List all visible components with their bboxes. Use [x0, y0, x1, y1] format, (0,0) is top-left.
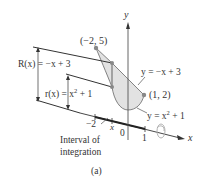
- washer-method-diagram: y x (−2, 5) (1, 2) y = −x + 3 y = x2 + 1…: [0, 0, 204, 187]
- x-axis-label: x: [187, 132, 193, 143]
- inner-radius-line: [66, 74, 112, 87]
- point-label-neg2-5: (−2, 5): [80, 35, 107, 47]
- parabola-label-leader: [137, 108, 147, 113]
- y-axis-arrow-icon: [126, 22, 130, 29]
- parabola-equation-label: y = x2 + 1: [147, 109, 185, 121]
- line-equation-label: y = −x + 3: [141, 67, 181, 77]
- point-label-1-2: (1, 2): [149, 89, 171, 101]
- tick-neg2: −2: [86, 119, 96, 129]
- x-axis-arrow-icon: [177, 135, 185, 140]
- tick-zero: 0: [120, 128, 125, 138]
- interval-label-line2: integration: [60, 147, 101, 157]
- inner-radius-label: r(x) = x2 + 1: [45, 87, 92, 100]
- base-line: [36, 100, 80, 113]
- interval-label-line1: Interval of: [60, 135, 101, 145]
- outer-radius-label: R(x) = −x + 3: [18, 59, 71, 70]
- line-label-leader: [138, 77, 145, 85]
- point-1-2: [142, 93, 146, 97]
- figure-caption: (a): [91, 166, 102, 177]
- y-axis-label: y: [123, 9, 129, 20]
- shaded-region: [96, 48, 144, 110]
- rect-bottom-point: [110, 85, 114, 89]
- point-neg2-5: [94, 46, 98, 50]
- rotation-icon: [157, 124, 165, 138]
- rect-top-point: [110, 61, 114, 65]
- tick-one: 1: [142, 133, 147, 143]
- tick-x-mark: x: [109, 122, 114, 132]
